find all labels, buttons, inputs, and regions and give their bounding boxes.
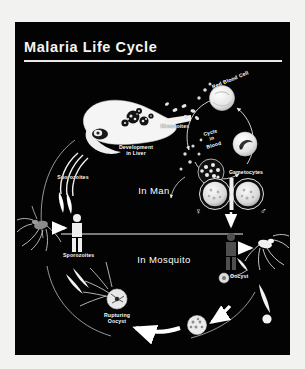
label-sporozoites-man: Sporozoites	[51, 174, 95, 180]
malaria-life-cycle-poster: Malaria Life Cycle	[15, 22, 290, 355]
label-in-mosquito: In Mosquito	[133, 254, 195, 265]
infected-red-blood-cell	[233, 132, 257, 156]
poster-frame: Malaria Life Cycle	[0, 0, 305, 369]
label-rupturing-oocyst: Rupturing Oocyst	[93, 312, 141, 325]
label-in-man: In Man	[133, 185, 175, 196]
developing-oocyst	[188, 316, 207, 335]
arrow-oocyst-to-rupture	[136, 328, 180, 332]
gametocytes-pair	[200, 178, 264, 210]
sporozoite-shapes-man	[59, 192, 72, 214]
mosquito-left	[17, 206, 61, 251]
female-symbol-icon: ♀	[195, 207, 202, 216]
label-sporozoites-mosquito: Sporozoites	[63, 252, 107, 258]
mosquito-right	[245, 235, 289, 271]
ookinete	[237, 258, 248, 271]
label-development-in-liver: Development in Liver	[107, 144, 165, 157]
male-symbol-icon: ♂	[260, 207, 267, 216]
label-oocyst: Oocyst	[230, 273, 262, 279]
label-gametocytes: Gametocytes	[222, 169, 270, 175]
arrow-oocyst-growth	[212, 306, 230, 322]
sporozoite-rod	[259, 284, 272, 324]
human-figure-right	[226, 233, 236, 270]
label-merozoites: Merozoites	[152, 123, 198, 129]
oocyst-small	[219, 273, 229, 283]
human-figure-left	[72, 214, 82, 252]
